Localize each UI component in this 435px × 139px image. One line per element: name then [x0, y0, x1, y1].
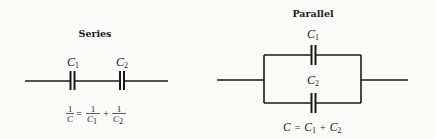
series-circuit: Series C1 C2 1 C =: [25, 28, 168, 126]
parallel-c2-label: C2: [307, 73, 319, 88]
parallel-capacitor-c2-icon: [312, 93, 316, 113]
series-title: Series: [79, 28, 112, 39]
svg-text:=: =: [76, 108, 82, 119]
parallel-formula: C = C1 + C2: [283, 117, 341, 136]
svg-text:+: +: [103, 108, 109, 119]
svg-text:C2: C2: [113, 114, 123, 126]
series-c1-label: C1: [67, 55, 79, 70]
svg-text:C: C: [67, 114, 74, 124]
parallel-capacitor-c1-icon: [312, 45, 316, 65]
svg-text:1: 1: [117, 104, 121, 114]
parallel-c1-label: C1: [307, 27, 319, 42]
parallel-circuit: Parallel C1 C2 C =: [217, 8, 408, 136]
capacitor-diagram: Series C1 C2 1 C =: [0, 0, 435, 139]
svg-text:C1: C1: [87, 114, 97, 126]
series-capacitor-c2-icon: [120, 71, 124, 90]
series-capacitor-c1-icon: [71, 71, 75, 90]
svg-text:1: 1: [91, 104, 95, 114]
parallel-title: Parallel: [292, 8, 333, 19]
series-c2-label: C2: [116, 55, 128, 70]
series-formula: 1 C = 1 C1 + 1 C2: [66, 104, 126, 126]
svg-text:1: 1: [68, 104, 72, 114]
